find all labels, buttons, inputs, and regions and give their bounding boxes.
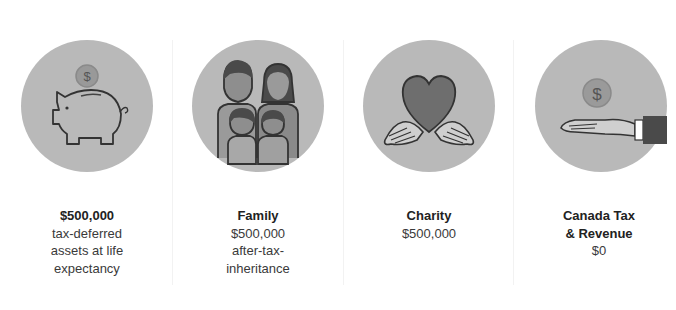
heart-hands-icon [363, 40, 495, 172]
item-detail: inheritance [173, 260, 343, 278]
svg-text:$: $ [83, 69, 91, 84]
item-detail: after-tax- [173, 242, 343, 260]
item-detail: expectancy [2, 260, 172, 278]
icon-circle [363, 40, 495, 172]
svg-text:$: $ [592, 85, 602, 104]
icon-circle: $ [21, 40, 153, 172]
icon-circle: $ [535, 40, 667, 172]
icon-circle [192, 40, 324, 172]
item-detail: $500,000 [173, 225, 343, 243]
item-title: & Revenue [514, 225, 676, 243]
item-title: Canada Tax [514, 207, 676, 225]
item-title: $500,000 [2, 207, 172, 225]
item-title: Family [173, 207, 343, 225]
item-detail: assets at life [2, 242, 172, 260]
item-detail: $0 [514, 242, 676, 260]
item-canada-tax-revenue: $ Canada Tax & Revenue $0 [514, 30, 676, 290]
family-icon [192, 40, 324, 172]
item-assets: $ $500,000 tax-deferred assets at life e… [2, 30, 172, 290]
piggy-bank-coin-icon: $ [21, 40, 153, 172]
item-detail: tax-deferred [2, 225, 172, 243]
hand-coin-icon: $ [535, 40, 667, 172]
item-family: Family $500,000 after-tax- inheritance [173, 30, 343, 290]
item-title: Charity [344, 207, 514, 225]
item-charity: Charity $500,000 [344, 30, 514, 290]
item-detail: $500,000 [344, 225, 514, 243]
